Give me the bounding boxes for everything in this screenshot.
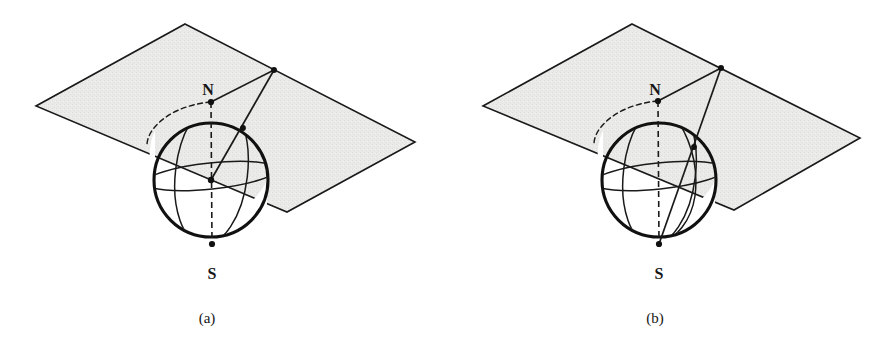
dot-north-pole-b bbox=[655, 98, 661, 104]
polar-axis-dashed bbox=[211, 102, 212, 244]
dot-sphere-point-a bbox=[240, 125, 246, 131]
panel-caption-b: (b) bbox=[646, 310, 664, 327]
polar-axis-dashed bbox=[658, 101, 659, 244]
dot-sphere-center-a bbox=[208, 177, 214, 183]
dot-external-point-b bbox=[718, 65, 724, 71]
north-pole-label-b: N bbox=[649, 81, 661, 98]
panel-caption-a: (a) bbox=[199, 310, 216, 327]
dot-north-pole-a bbox=[208, 99, 214, 105]
stereographic-projection-figure: N S (a) N S (b) bbox=[0, 0, 885, 345]
south-pole-label-b: S bbox=[655, 265, 664, 282]
dot-external-point-a bbox=[271, 67, 277, 73]
south-pole-label-a: S bbox=[208, 265, 217, 282]
dot-south-pole-b bbox=[656, 241, 662, 247]
dot-south-pole-a bbox=[209, 241, 215, 247]
dot-sphere-point-b bbox=[691, 144, 697, 150]
north-pole-label-a: N bbox=[202, 81, 214, 98]
